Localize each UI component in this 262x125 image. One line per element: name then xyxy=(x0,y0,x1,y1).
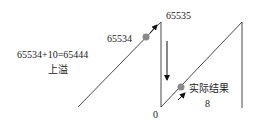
overflow-caption-label: 上溢 xyxy=(48,63,68,75)
overflow-wraparound-diagram: 65534+10=65444 上溢 65534 65535 0 实际结果 8 xyxy=(0,0,262,125)
value-65534-label: 65534 xyxy=(107,33,132,44)
continue-arrow-icon xyxy=(178,93,185,100)
value-zero-label: 0 xyxy=(153,109,158,120)
actual-result-caption: 实际结果 xyxy=(189,82,229,94)
ramp-line-2 xyxy=(161,22,242,107)
actual-result-value: 8 xyxy=(205,98,210,109)
point-result-dot xyxy=(178,84,185,91)
overflow-equation-label: 65534+10=65444 xyxy=(17,49,88,60)
diagram-canvas: 65534+10=65444 上溢 65534 65535 0 实际结果 8 xyxy=(0,0,262,125)
increment-arrow-icon xyxy=(150,25,157,33)
value-65535-label: 65535 xyxy=(166,10,191,21)
point-65534-dot xyxy=(143,34,150,41)
